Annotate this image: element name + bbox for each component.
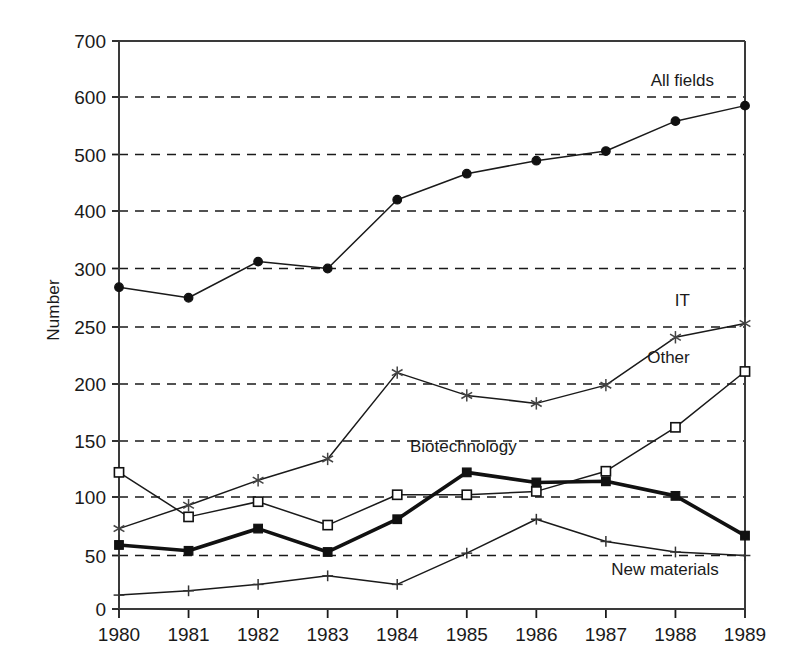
marker-open-square xyxy=(532,487,541,496)
y-tick-label: 500 xyxy=(74,145,106,166)
marker-filled-square xyxy=(184,547,193,556)
marker-filled-square xyxy=(532,478,541,487)
y-tick-label: 600 xyxy=(74,87,106,108)
y-tick-label: 150 xyxy=(74,431,106,452)
series-annotation-it: IT xyxy=(675,291,690,310)
marker-plus xyxy=(531,514,542,525)
marker-asterisk xyxy=(253,474,264,486)
marker-filled-circle xyxy=(115,283,124,292)
marker-plus xyxy=(461,548,472,559)
marker-asterisk xyxy=(183,499,194,511)
y-axis-ticks: 050100150200250300400500600700 xyxy=(74,31,119,620)
marker-filled-square xyxy=(462,468,471,477)
marker-open-square xyxy=(601,467,610,476)
marker-open-square xyxy=(740,367,749,376)
x-tick-label: 1984 xyxy=(376,624,419,645)
x-tick-label: 1988 xyxy=(654,624,696,645)
marker-filled-circle xyxy=(671,117,680,126)
y-tick-label: 50 xyxy=(85,546,106,567)
y-tick-label: 200 xyxy=(74,374,106,395)
line-chart-canvas: 050100150200250300400500600700 198019811… xyxy=(0,0,793,664)
marker-filled-circle xyxy=(532,156,541,165)
marker-filled-square xyxy=(393,515,402,524)
series-all-fields xyxy=(115,101,750,302)
marker-filled-square xyxy=(741,531,750,540)
marker-filled-square xyxy=(254,524,263,533)
marker-plus xyxy=(392,579,403,590)
marker-filled-circle xyxy=(602,147,611,156)
marker-open-square xyxy=(254,497,263,506)
y-tick-label: 300 xyxy=(74,259,106,280)
x-tick-label: 1981 xyxy=(167,624,209,645)
y-tick-label: 100 xyxy=(74,487,106,508)
marker-filled-square xyxy=(115,541,124,550)
marker-plus xyxy=(114,590,125,601)
marker-open-square xyxy=(323,520,332,529)
marker-open-square xyxy=(671,423,680,432)
marker-filled-square xyxy=(323,548,332,557)
series-annotation-biotechnology: Biotechnology xyxy=(410,437,517,456)
x-tick-label: 1987 xyxy=(585,624,627,645)
x-tick-label: 1989 xyxy=(724,624,766,645)
series-annotation-new-materials: New materials xyxy=(611,560,719,579)
marker-open-square xyxy=(114,468,123,477)
marker-plus xyxy=(183,585,194,596)
marker-filled-square xyxy=(671,492,680,501)
x-tick-label: 1980 xyxy=(98,624,140,645)
marker-filled-circle xyxy=(254,257,263,266)
marker-plus xyxy=(740,550,751,561)
series-line xyxy=(119,519,745,595)
marker-filled-circle xyxy=(323,264,332,273)
marker-filled-circle xyxy=(462,169,471,178)
marker-asterisk xyxy=(601,379,612,391)
series-annotation-all-fields: All fields xyxy=(651,71,714,90)
x-tick-label: 1985 xyxy=(446,624,488,645)
series-annotations-group: All fieldsITOtherBiotechnologyNew materi… xyxy=(410,71,719,579)
x-tick-label: 1983 xyxy=(307,624,349,645)
y-tick-label: 0 xyxy=(95,599,106,620)
marker-plus xyxy=(600,536,611,547)
marker-filled-circle xyxy=(184,293,193,302)
marker-plus xyxy=(253,579,264,590)
marker-asterisk xyxy=(114,522,125,534)
plot-frame xyxy=(119,41,745,609)
marker-plus xyxy=(322,570,333,581)
chart-figure: Number 050100150200250300400500600700 19… xyxy=(0,0,793,664)
x-tick-label: 1982 xyxy=(237,624,279,645)
marker-filled-square xyxy=(602,477,611,486)
x-axis-ticks: 1980198119821983198419851986198719881989 xyxy=(98,609,766,645)
y-tick-label: 250 xyxy=(74,317,106,338)
y-tick-label: 400 xyxy=(74,201,106,222)
x-tick-label: 1986 xyxy=(515,624,557,645)
marker-filled-circle xyxy=(393,195,402,204)
marker-open-square xyxy=(184,512,193,521)
series-new-materials xyxy=(114,514,751,601)
gridlines-group xyxy=(119,97,745,556)
marker-open-square xyxy=(462,490,471,499)
marker-filled-circle xyxy=(741,101,750,110)
marker-open-square xyxy=(393,490,402,499)
series-annotation-other: Other xyxy=(647,348,690,367)
y-tick-label: 700 xyxy=(74,31,106,52)
